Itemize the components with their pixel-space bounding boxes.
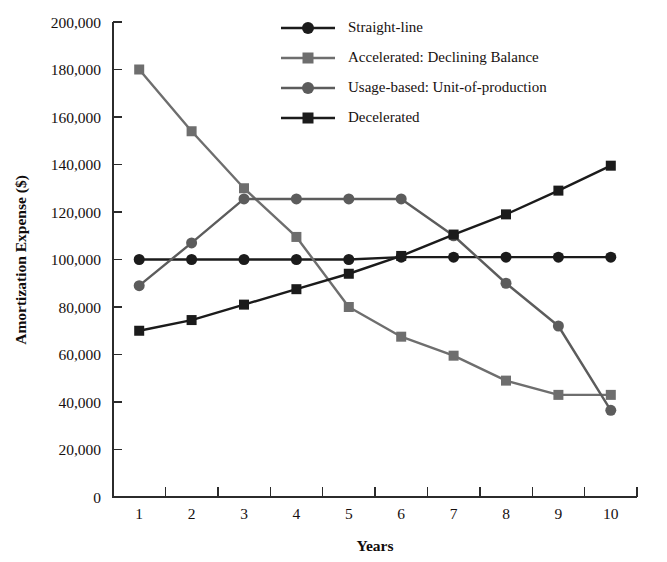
data-point — [134, 254, 145, 265]
legend-item-4[interactable]: Decelerated — [281, 109, 420, 125]
series-3 — [134, 193, 617, 415]
data-point — [239, 183, 249, 193]
data-point — [501, 209, 511, 219]
data-point — [553, 186, 563, 196]
data-point — [134, 65, 144, 75]
data-point — [343, 193, 354, 204]
chart-container: 020,00040,00060,00080,000100,000120,0001… — [0, 0, 667, 562]
data-point — [239, 193, 250, 204]
data-point — [606, 390, 616, 400]
data-point — [291, 254, 302, 265]
y-tick-label: 60,000 — [58, 346, 101, 363]
data-point — [553, 321, 564, 332]
data-point — [186, 254, 197, 265]
legend-swatch-marker — [302, 82, 314, 94]
data-point — [553, 390, 563, 400]
x-tick-label: 1 — [135, 505, 143, 522]
y-tick-label: 100,000 — [51, 251, 102, 268]
data-point — [553, 252, 564, 263]
legend-label: Usage-based: Unit-of-production — [348, 79, 547, 95]
series-line — [139, 199, 611, 410]
data-point — [291, 193, 302, 204]
data-point — [448, 252, 459, 263]
data-point — [291, 284, 301, 294]
y-axis-title: Amortization Expense ($) — [12, 175, 30, 345]
x-tick-label: 9 — [555, 505, 563, 522]
data-point — [186, 237, 197, 248]
x-axis-ticks: 12345678910 — [113, 487, 637, 522]
legend-swatch-marker — [302, 22, 314, 34]
x-tick-label: 6 — [397, 505, 405, 522]
y-tick-label: 80,000 — [58, 299, 101, 316]
x-tick-label: 5 — [345, 505, 353, 522]
series-4 — [134, 161, 616, 336]
x-tick-label: 10 — [603, 505, 619, 522]
x-axis-title: Years — [356, 537, 393, 554]
data-point — [187, 315, 197, 325]
series-1 — [134, 252, 617, 265]
data-point — [187, 126, 197, 136]
data-point — [344, 302, 354, 312]
x-tick-label: 2 — [188, 505, 196, 522]
series-line — [139, 166, 611, 331]
y-axis-ticks: 020,00040,00060,00080,000100,000120,0001… — [51, 14, 122, 506]
legend-item-3[interactable]: Usage-based: Unit-of-production — [281, 79, 547, 95]
data-point — [396, 193, 407, 204]
legend-swatch-marker — [303, 53, 314, 64]
data-point — [605, 252, 616, 263]
data-point — [134, 326, 144, 336]
legend-label: Accelerated: Declining Balance — [348, 49, 539, 65]
legend-item-1[interactable]: Straight-line — [281, 19, 423, 35]
x-tick-label: 8 — [502, 505, 510, 522]
y-tick-label: 120,000 — [51, 204, 102, 221]
legend-label: Decelerated — [348, 109, 420, 125]
series-line — [139, 257, 611, 259]
y-tick-label: 140,000 — [51, 156, 102, 173]
y-tick-label: 200,000 — [51, 14, 102, 31]
data-point — [449, 230, 459, 240]
legend-item-2[interactable]: Accelerated: Declining Balance — [281, 49, 539, 65]
data-point — [239, 254, 250, 265]
data-point — [501, 252, 512, 263]
data-point — [396, 332, 406, 342]
data-point — [344, 269, 354, 279]
line-chart: 020,00040,00060,00080,000100,000120,0001… — [0, 0, 667, 562]
x-tick-label: 7 — [450, 505, 458, 522]
x-tick-label: 4 — [293, 505, 301, 522]
data-point — [605, 405, 616, 416]
data-point — [239, 300, 249, 310]
data-point — [291, 232, 301, 242]
y-tick-label: 180,000 — [51, 61, 102, 78]
data-point — [501, 278, 512, 289]
y-tick-label: 160,000 — [51, 109, 102, 126]
chart-legend: Straight-lineAccelerated: Declining Bala… — [281, 19, 547, 125]
x-tick-label: 3 — [240, 505, 248, 522]
y-tick-label: 40,000 — [58, 394, 101, 411]
data-point — [449, 351, 459, 361]
y-tick-label: 0 — [93, 489, 101, 506]
legend-label: Straight-line — [348, 19, 423, 35]
data-point — [343, 254, 354, 265]
data-point — [606, 161, 616, 171]
data-point — [501, 376, 511, 386]
data-point — [134, 280, 145, 291]
data-point — [396, 251, 406, 261]
legend-swatch-marker — [303, 113, 314, 124]
y-tick-label: 20,000 — [58, 441, 101, 458]
